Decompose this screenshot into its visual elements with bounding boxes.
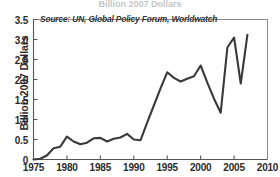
chart-figure: Billion 2007 Dollars Billion 2007 Dollar… <box>0 0 280 177</box>
plot-area <box>0 0 280 177</box>
source-annotation: Source: UN, Global Policy Forum, Worldwa… <box>40 14 217 24</box>
data-line-series-0 <box>34 35 248 160</box>
